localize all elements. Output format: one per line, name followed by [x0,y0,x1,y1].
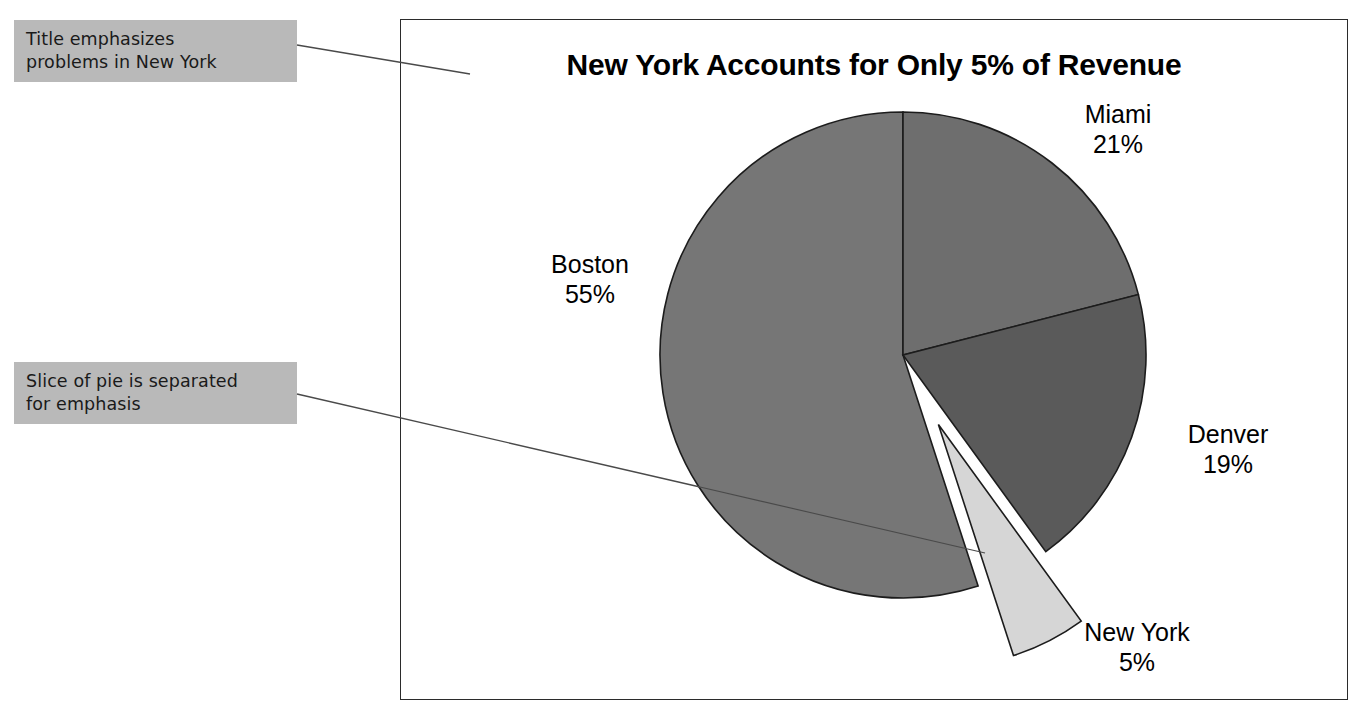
pie-label-miami-name: Miami [1085,100,1152,128]
pie-label-denver-name: Denver [1188,420,1269,448]
pie-label-denver: Denver 19% [1138,420,1318,479]
pie-label-miami-value: 21% [1028,130,1208,160]
slide-canvas: New York Accounts for Only 5% of Revenue… [0,0,1351,715]
pie-label-newyork-name: New York [1084,618,1190,646]
pie-label-newyork-value: 5% [1042,648,1232,678]
annotation-slice-note-line2: for emphasis [26,393,287,416]
annotation-slice-note-line1: Slice of pie is separated [26,371,238,391]
pie-label-miami: Miami 21% [1028,100,1208,159]
annotation-title-note-line1: Title emphasizes [26,29,174,49]
pie-label-boston: Boston 55% [500,250,680,309]
annotation-slice-note: Slice of pie is separated for emphasis [14,362,297,424]
annotation-title-note-line2: problems in New York [26,51,287,74]
pie-label-boston-value: 55% [500,280,680,310]
pie-label-boston-name: Boston [551,250,629,278]
annotation-title-note: Title emphasizes problems in New York [14,20,297,82]
pie-label-newyork: New York 5% [1042,618,1232,677]
pie-label-denver-value: 19% [1138,450,1318,480]
